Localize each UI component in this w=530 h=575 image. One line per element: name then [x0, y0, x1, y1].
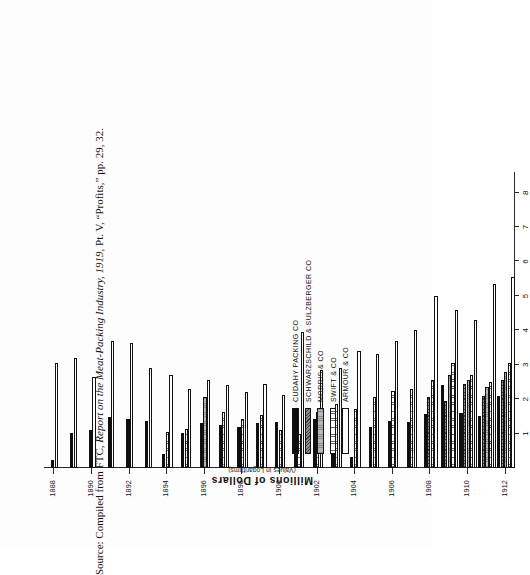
bar-group-1905: [364, 172, 383, 468]
bar: [407, 422, 410, 468]
legend-swatch-icon: [342, 408, 348, 454]
legend-swatch-icon: [305, 408, 311, 454]
bar: [70, 433, 73, 468]
bar-group-1889: [63, 172, 82, 468]
bar-group-1894: [157, 172, 176, 468]
bar: [504, 372, 507, 468]
legend-swatch-icon: [292, 408, 298, 454]
bar: [200, 423, 203, 468]
bar: [395, 341, 398, 468]
value-axis-title: Millions of Dollars (Values in Logarithm…: [187, 467, 337, 487]
legend-label: SWIFT & CO: [330, 357, 337, 402]
value-tick: [514, 329, 519, 330]
bar: [497, 396, 500, 468]
bar: [376, 354, 379, 468]
bar: [222, 412, 225, 468]
bar: [130, 343, 133, 468]
bar: [55, 363, 58, 468]
bar-group-1907: [401, 172, 420, 468]
bar: [145, 421, 148, 468]
bar: [166, 432, 169, 468]
bar-group-1900: [270, 172, 289, 468]
bar: [467, 380, 470, 468]
legend-swatch-icon: [330, 408, 336, 454]
bar: [410, 389, 413, 468]
axis-title-sub: (Values in Logarithms): [187, 467, 337, 474]
year-tick: [392, 468, 393, 474]
year-tick: [166, 468, 167, 474]
bar-group-1893: [138, 172, 157, 468]
value-tick: [514, 433, 519, 434]
bar: [185, 429, 188, 468]
bar: [169, 375, 172, 468]
year-label-1908: 1908: [425, 480, 433, 520]
bar: [427, 397, 430, 468]
year-tick: [53, 468, 54, 474]
bar: [369, 427, 372, 468]
legend-item[interactable]: SWIFT & CO: [328, 260, 339, 454]
legend-item[interactable]: ARMOUR & CO: [340, 260, 351, 454]
bar: [226, 385, 229, 468]
source-note: Source: Compiled from FTC, Report on the…: [93, 245, 105, 575]
bar: [108, 417, 111, 468]
bar: [431, 380, 434, 468]
value-tick-label: 8: [521, 183, 530, 203]
bar-group-1910: [458, 172, 477, 468]
bar: [354, 410, 357, 469]
legend-label: CUDAHY PACKING CO: [292, 320, 299, 402]
bar: [373, 397, 376, 468]
bar: [282, 395, 285, 468]
bar: [245, 392, 248, 468]
bar: [89, 430, 92, 468]
bar-group-1906: [382, 172, 401, 468]
bar: [350, 457, 353, 468]
bar: [511, 277, 514, 468]
bar-group-1908: [420, 172, 439, 468]
legend-label: MORRIS & CO: [317, 350, 324, 402]
bar-group-1895: [176, 172, 195, 468]
bar: [424, 414, 427, 468]
bar: [111, 341, 114, 468]
source-prefix: Source: Compiled from FTC,: [93, 443, 105, 575]
bar-group-1888: [44, 172, 63, 468]
legend-label: ARMOUR & CO: [342, 347, 349, 402]
year-tick: [505, 468, 506, 474]
bar: [508, 363, 511, 468]
year-label-1904: 1904: [350, 480, 358, 520]
bar: [482, 396, 485, 468]
bar-group-1897: [213, 172, 232, 468]
bar: [74, 358, 77, 468]
value-tick: [514, 364, 519, 365]
value-tick-label: 4: [521, 320, 530, 340]
year-label-1906: 1906: [388, 480, 396, 520]
bar: [459, 413, 462, 468]
bar: [260, 415, 263, 468]
value-tick-label: 7: [521, 217, 530, 237]
bar: [444, 401, 447, 468]
value-tick-label: 2: [521, 389, 530, 409]
legend-item[interactable]: CUDAHY PACKING CO: [290, 260, 301, 454]
bar: [414, 330, 417, 468]
year-label-1892: 1892: [125, 480, 133, 520]
bar: [51, 460, 54, 468]
value-tick: [514, 295, 519, 296]
bar: [388, 421, 391, 468]
legend-item[interactable]: SCHWARZSCHILD & SULZBERGER CO: [303, 260, 314, 454]
bar: [434, 296, 437, 468]
value-tick: [514, 226, 519, 227]
bar: [470, 375, 473, 468]
bar-group-1912: [495, 172, 514, 468]
year-label-1888: 1888: [49, 480, 57, 520]
legend-item[interactable]: MORRIS & CO: [315, 260, 326, 454]
source-suffix: , Pt. V, “Profits,” pp. 29, 32.: [93, 128, 105, 251]
bar: [448, 375, 451, 468]
year-tick: [429, 468, 430, 474]
bar: [126, 419, 129, 468]
bar: [207, 380, 210, 468]
bar: [489, 382, 492, 468]
bar: [441, 385, 444, 468]
bar: [463, 384, 466, 468]
year-tick: [354, 468, 355, 474]
